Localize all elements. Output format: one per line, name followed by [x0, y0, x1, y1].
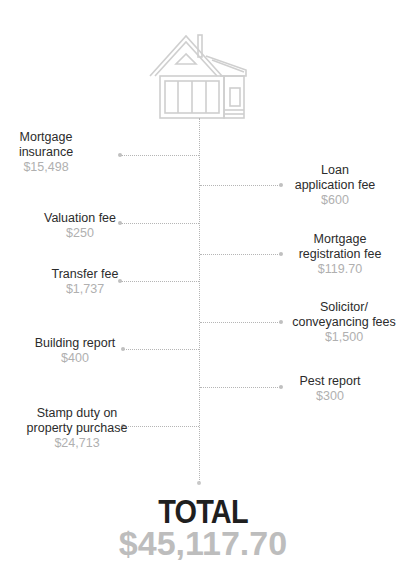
- connector-solicitor-fees: [200, 322, 280, 323]
- cost-item-loan-application-fee: Loan application fee $600: [285, 163, 385, 208]
- total-value: $45,117.70: [0, 524, 406, 563]
- cost-amount: $250: [30, 226, 130, 241]
- cost-amount: $15,498: [0, 160, 106, 175]
- cost-amount: $300: [290, 389, 370, 404]
- cost-amount: $119.70: [285, 262, 395, 277]
- cost-label: Valuation fee: [30, 211, 130, 226]
- connector-loan-application-fee: [200, 185, 280, 186]
- cropped-heading-remnant: [80, 0, 280, 3]
- cost-amount: $1,737: [45, 282, 125, 297]
- connector-dot: [279, 320, 283, 324]
- cost-item-valuation-fee: Valuation fee $250: [30, 211, 130, 241]
- cost-item-pest-report: Pest report $300: [290, 374, 370, 404]
- cost-label: Mortgage registration fee: [285, 232, 395, 262]
- cost-amount: $400: [20, 351, 130, 366]
- connector-dot: [279, 183, 283, 187]
- cost-amount: $24,713: [12, 436, 142, 451]
- cost-label: Loan application fee: [285, 163, 385, 193]
- house-icon: [148, 34, 252, 120]
- connector-valuation-fee: [121, 223, 199, 224]
- connector-pest-report: [200, 387, 280, 388]
- cost-amount: $600: [285, 193, 385, 208]
- cost-label: Pest report: [290, 374, 370, 389]
- cost-item-transfer-fee: Transfer fee $1,737: [45, 267, 125, 297]
- connector-mortgage-registration-fee: [200, 254, 280, 255]
- cost-item-mortgage-registration-fee: Mortgage registration fee $119.70: [285, 232, 395, 277]
- connector-dot: [279, 385, 283, 389]
- cost-item-solicitor-fees: Solicitor/ conveyancing fees $1,500: [285, 300, 403, 345]
- timeline-vertical-line: [199, 118, 200, 482]
- cost-label: Transfer fee: [45, 267, 125, 282]
- connector-mortgage-insurance: [121, 155, 199, 156]
- cost-label: Building report: [20, 336, 130, 351]
- cost-label: Solicitor/ conveyancing fees: [285, 300, 403, 330]
- cost-item-mortgage-insurance: Mortgage insurance $15,498: [0, 130, 106, 175]
- cost-label: Stamp duty on property purchase: [12, 406, 142, 436]
- cost-item-stamp-duty: Stamp duty on property purchase $24,713: [12, 406, 142, 451]
- connector-dot: [118, 153, 122, 157]
- cost-item-building-report: Building report $400: [20, 336, 130, 366]
- connector-building-report: [124, 349, 199, 350]
- cost-amount: $1,500: [285, 330, 403, 345]
- timeline-end-dot: [197, 481, 201, 485]
- cost-label: Mortgage insurance: [0, 130, 106, 160]
- connector-transfer-fee: [121, 281, 199, 282]
- connector-dot: [279, 252, 283, 256]
